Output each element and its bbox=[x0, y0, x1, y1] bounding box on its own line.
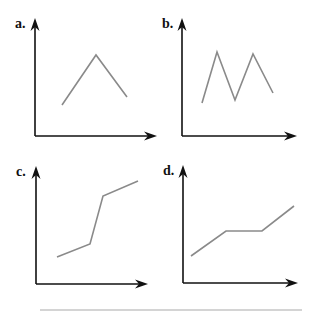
panel-label: a. bbox=[15, 16, 26, 31]
panel-label: d. bbox=[163, 163, 174, 178]
panel-b: b. bbox=[162, 16, 297, 141]
panel-label: b. bbox=[162, 16, 173, 31]
series-line bbox=[62, 55, 127, 105]
series-line bbox=[191, 206, 294, 256]
series-line bbox=[57, 181, 138, 257]
panel-c: c. bbox=[16, 164, 148, 289]
panel-label: c. bbox=[16, 164, 26, 179]
panel-a: a. bbox=[15, 16, 157, 141]
panel-d: d. bbox=[163, 163, 298, 288]
figure-canvas: a.b.c.d. bbox=[0, 0, 311, 311]
series-line bbox=[202, 52, 273, 103]
